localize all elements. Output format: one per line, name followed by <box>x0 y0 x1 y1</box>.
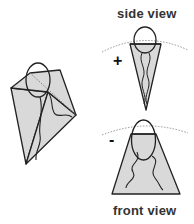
oblique-view-figure <box>11 63 76 164</box>
plus-sign-icon: + <box>113 53 122 69</box>
side-view-label: side view <box>117 6 177 21</box>
minus-sign-icon: - <box>109 132 114 148</box>
front-view-label: front view <box>113 203 176 218</box>
front-view-figure <box>102 120 188 194</box>
front-trapezoid <box>112 134 180 194</box>
diagram-canvas <box>0 0 194 224</box>
side-triangle <box>130 44 161 110</box>
